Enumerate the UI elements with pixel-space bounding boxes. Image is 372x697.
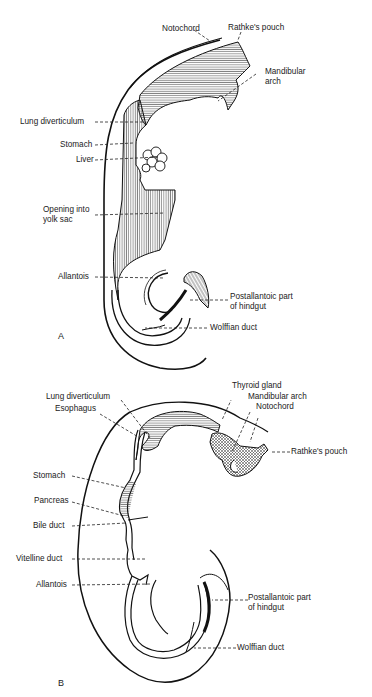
label-bile-duct-b: Bile duct xyxy=(33,521,64,531)
embryo-b-drawing xyxy=(0,400,372,697)
label-stomach-b: Stomach xyxy=(33,471,65,481)
label-postallantoic-a-2: of hindgut xyxy=(230,302,266,312)
label-pancreas-b: Pancreas xyxy=(34,496,69,506)
panel-label-a: A xyxy=(58,331,64,341)
label-mandibular-arch-a-2: arch xyxy=(265,77,281,87)
label-allantois-a: Allantois xyxy=(58,272,89,282)
label-lung-diverticulum-a: Lung diverticulum xyxy=(20,117,84,127)
label-esophagus-b: Esophagus xyxy=(55,404,96,414)
panel-label-b: B xyxy=(58,678,64,688)
label-wolffian-duct-a: Wolffian duct xyxy=(210,323,257,333)
label-mandibular-arch-a-1: Mandibular xyxy=(265,67,306,77)
label-allantois-b: Allantois xyxy=(36,580,67,590)
label-opening-yolk-sac-a-1: Opening into xyxy=(43,205,89,215)
figure-a: Notochord Rathke's pouch Mandibular arch… xyxy=(0,0,372,400)
label-postallantoic-a-1: Postallantoic part xyxy=(230,292,293,302)
label-mandibular-arch-b: Mandibular arch xyxy=(248,392,307,402)
label-notochord-b: Notochord xyxy=(256,402,294,412)
label-lung-diverticulum-b: Lung diverticulum xyxy=(46,392,110,402)
label-postallantoic-b-1: Postallantoic part xyxy=(248,593,311,603)
label-postallantoic-b-2: of hindgut xyxy=(248,603,284,613)
label-wolffian-duct-b: Wolffian duct xyxy=(237,643,284,653)
figure-b: Lung diverticulum Thyroid gland Mandibul… xyxy=(0,400,372,697)
label-notochord-a: Notochord xyxy=(162,24,200,34)
embryo-a-drawing xyxy=(0,0,372,400)
label-vitelline-duct-b: Vitelline duct xyxy=(16,554,62,564)
label-rathkes-pouch-b: Rathke's pouch xyxy=(291,447,347,457)
label-thyroid-gland-b: Thyroid gland xyxy=(232,381,282,391)
label-rathkes-pouch-a: Rathke's pouch xyxy=(228,23,284,33)
label-opening-yolk-sac-a-2: yolk sac xyxy=(43,215,73,225)
label-liver-a: Liver xyxy=(76,155,94,165)
label-stomach-a: Stomach xyxy=(60,140,92,150)
